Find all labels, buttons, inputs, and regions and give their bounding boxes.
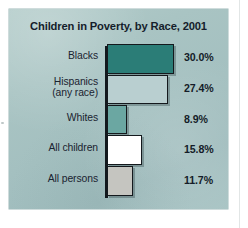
bar-value-all-children: 15.8% bbox=[184, 143, 228, 155]
bar-value-whites: 8.9% bbox=[184, 113, 228, 125]
poverty-bar-chart-figure: Children in Poverty, by Race, 2001 Black… bbox=[0, 0, 248, 228]
chart-panel: Children in Poverty, by Race, 2001 Black… bbox=[9, 9, 228, 209]
scan-edge-line bbox=[239, 0, 240, 228]
bar-label-hispanics-line1: Hispanics bbox=[14, 76, 98, 87]
bar-row-whites: Whites 8.9% bbox=[9, 104, 228, 134]
chart-title: Children in Poverty, by Race, 2001 bbox=[9, 20, 228, 32]
bar-label-blacks: Blacks bbox=[14, 50, 98, 62]
bar-row-hispanics: Hispanics (any race) 27.4% bbox=[9, 74, 228, 104]
scan-speck-mark bbox=[1, 122, 4, 124]
bar-shape-all-persons bbox=[107, 166, 133, 196]
bar-value-all-persons: 11.7% bbox=[184, 174, 228, 186]
bar-shape-blacks bbox=[107, 44, 174, 74]
bar-value-hispanics: 27.4% bbox=[184, 82, 228, 94]
bar-shape-whites bbox=[107, 105, 127, 134]
bar-label-all-persons: All persons bbox=[14, 173, 98, 185]
bar-shape-hispanics bbox=[107, 75, 168, 104]
bar-row-all-persons: All persons 11.7% bbox=[9, 165, 228, 195]
bar-label-whites: Whites bbox=[14, 112, 98, 124]
bar-row-all-children: All children 15.8% bbox=[9, 134, 228, 164]
bar-label-hispanics-line2: (any race) bbox=[14, 87, 98, 98]
plot-area: Blacks 30.0% Hispanics (any race) 27.4% … bbox=[9, 42, 228, 202]
bar-shape-all-children bbox=[107, 135, 142, 165]
bar-value-blacks: 30.0% bbox=[184, 51, 228, 63]
bar-row-blacks: Blacks 30.0% bbox=[9, 42, 228, 72]
bar-label-all-children: All children bbox=[14, 142, 98, 154]
